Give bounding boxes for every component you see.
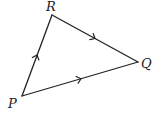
vertex-label-p: P — [7, 96, 17, 111]
vertex-label-r: R — [45, 0, 56, 14]
vertex-label-q: Q — [141, 56, 152, 71]
triangle-diagram: P R Q — [0, 0, 160, 113]
edge-pq — [22, 62, 138, 96]
